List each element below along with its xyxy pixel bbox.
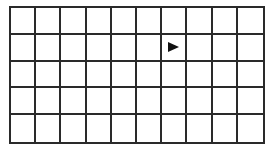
grid-cell-r3-c6 bbox=[162, 88, 187, 115]
grid-cell-r1-c1 bbox=[36, 35, 61, 62]
grid-cell-r3-c3 bbox=[87, 88, 112, 115]
grid-cell-r2-c8 bbox=[213, 62, 238, 89]
grid-cell-r4-c8 bbox=[213, 115, 238, 142]
grid-cell-r1-c6 bbox=[162, 35, 187, 62]
grid-cell-r4-c2 bbox=[61, 115, 86, 142]
grid-cell-r1-c4 bbox=[112, 35, 137, 62]
grid-cell-r1-c5 bbox=[137, 35, 162, 62]
grid-cell-r3-c1 bbox=[36, 88, 61, 115]
grid-cell-r2-c2 bbox=[61, 62, 86, 89]
grid-cell-r2-c6 bbox=[162, 62, 187, 89]
grid-cell-r4-c7 bbox=[187, 115, 212, 142]
grid-cell-r4-c3 bbox=[87, 115, 112, 142]
grid-cell-r3-c7 bbox=[187, 88, 212, 115]
grid-cell-r1-c3 bbox=[87, 35, 112, 62]
grid-cell-r3-c8 bbox=[213, 88, 238, 115]
grid-cell-r2-c4 bbox=[112, 62, 137, 89]
arrow-right-icon bbox=[168, 42, 179, 52]
grid-cell-r2-c0 bbox=[11, 62, 36, 89]
grid-cell-r1-c7 bbox=[187, 35, 212, 62]
grid-cell-r0-c4 bbox=[112, 8, 137, 35]
grid-cell-r2-c3 bbox=[87, 62, 112, 89]
grid-cell-r2-c7 bbox=[187, 62, 212, 89]
grid-cell-r2-c9 bbox=[238, 62, 263, 89]
grid-cell-r1-c2 bbox=[61, 35, 86, 62]
grid-cell-r3-c5 bbox=[137, 88, 162, 115]
grid-cell-r4-c4 bbox=[112, 115, 137, 142]
grid-cell-r3-c0 bbox=[11, 88, 36, 115]
grid-cell-r3-c2 bbox=[61, 88, 86, 115]
grid-cell-r1-c8 bbox=[213, 35, 238, 62]
grid-cell-r0-c2 bbox=[61, 8, 86, 35]
grid-cell-r0-c3 bbox=[87, 8, 112, 35]
grid-cell-r0-c0 bbox=[11, 8, 36, 35]
grid-cell-r4-c9 bbox=[238, 115, 263, 142]
grid-cell-r0-c9 bbox=[238, 8, 263, 35]
grid-cell-r3-c9 bbox=[238, 88, 263, 115]
grid-cell-r4-c1 bbox=[36, 115, 61, 142]
grid-cell-r0-c6 bbox=[162, 8, 187, 35]
grid-cell-r1-c0 bbox=[11, 35, 36, 62]
grid-cell-r2-c5 bbox=[137, 62, 162, 89]
grid-cell-r4-c0 bbox=[11, 115, 36, 142]
grid-cell-r0-c7 bbox=[187, 8, 212, 35]
grid-cell-r3-c4 bbox=[112, 88, 137, 115]
grid-cell-r4-c6 bbox=[162, 115, 187, 142]
grid-board bbox=[9, 6, 265, 144]
grid-cell-r0-c1 bbox=[36, 8, 61, 35]
grid-cell-r0-c8 bbox=[213, 8, 238, 35]
grid-cell-r1-c9 bbox=[238, 35, 263, 62]
grid-cell-r2-c1 bbox=[36, 62, 61, 89]
grid-cell-r4-c5 bbox=[137, 115, 162, 142]
grid-cell-r0-c5 bbox=[137, 8, 162, 35]
